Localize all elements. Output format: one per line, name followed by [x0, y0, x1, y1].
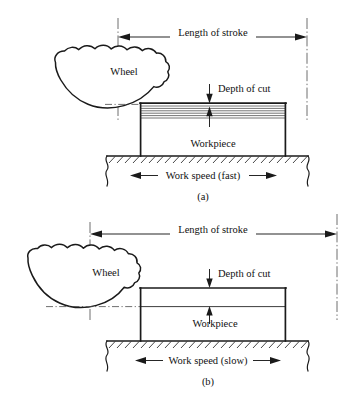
- depth-arrow-up-b: [206, 306, 212, 316]
- arrowhead-left-a: [118, 33, 130, 40]
- cut-layers-a: [140, 106, 286, 118]
- panel-caption-a: (a): [197, 191, 209, 203]
- table-break-right-a: [307, 156, 309, 186]
- wheel-label-b: Wheel: [92, 267, 119, 278]
- work-speed-arrow-right-b: [270, 357, 281, 364]
- depth-of-cut-label-b: Depth of cut: [218, 268, 271, 279]
- work-speed-arrow-left-b: [135, 357, 146, 364]
- depth-arrow-down-a: [206, 94, 212, 104]
- table-break-right-b: [307, 341, 309, 371]
- table-break-left-b: [106, 341, 108, 371]
- length-of-stroke-label-b: Length of stroke: [178, 224, 248, 235]
- work-speed-arrow-left-a: [130, 172, 141, 179]
- table-hatching-a: [109, 157, 307, 163]
- work-speed-dimension-a: Work speed (fast): [130, 170, 277, 182]
- workpiece-a: Workpiece: [140, 103, 286, 156]
- panel-caption-b: (b): [202, 376, 215, 388]
- arrowhead-left-b: [90, 230, 102, 237]
- table-break-left-a: [106, 156, 108, 186]
- arrowhead-right-a: [295, 33, 307, 40]
- work-speed-arrow-right-a: [266, 172, 277, 179]
- length-of-stroke-dimension-b: Length of stroke: [90, 224, 337, 238]
- length-of-stroke-label-a: Length of stroke: [178, 27, 248, 38]
- depth-of-cut-label-a: Depth of cut: [218, 83, 271, 94]
- length-of-stroke-dimension-a: Length of stroke: [118, 27, 307, 41]
- panel-a: Length of stroke Wheel: [55, 18, 309, 203]
- workpiece-label-a: Workpiece: [190, 138, 236, 149]
- work-speed-label-a: Work speed (fast): [166, 170, 241, 182]
- work-speed-label-b: Work speed (slow): [168, 355, 248, 367]
- workpiece-b: Workpiece: [140, 288, 286, 341]
- wheel-label-a: Wheel: [110, 66, 137, 77]
- table-hatching-b: [109, 342, 307, 348]
- depth-of-cut-dimension-b: Depth of cut: [206, 268, 270, 324]
- depth-arrow-down-b: [206, 278, 212, 288]
- grinding-diagram-svg: Length of stroke Wheel: [0, 0, 357, 407]
- panel-b: Length of stroke Wheel Workpiece: [28, 214, 337, 388]
- grinding-wheel-b: [28, 244, 141, 307]
- depth-arrow-up-a: [206, 107, 212, 117]
- depth-of-cut-dimension-a: Depth of cut: [206, 83, 270, 127]
- arrowhead-right-b: [325, 230, 337, 237]
- figure-container: Length of stroke Wheel: [0, 0, 357, 407]
- work-speed-dimension-b: Work speed (slow): [135, 355, 281, 367]
- workpiece-label-b: Workpiece: [192, 318, 238, 329]
